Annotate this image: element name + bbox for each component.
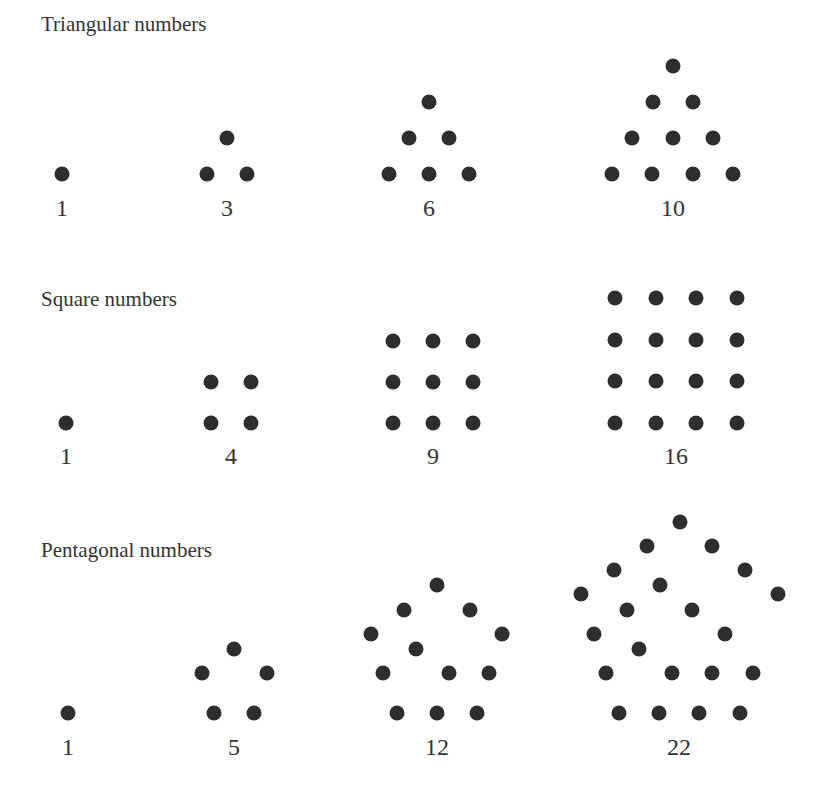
- dot: [649, 374, 664, 389]
- dot: [705, 539, 720, 554]
- dot: [227, 642, 242, 657]
- dot: [409, 642, 424, 657]
- triangular-label-1: 1: [56, 195, 68, 222]
- triangular-figure-1: [55, 167, 70, 182]
- dot: [402, 131, 417, 146]
- dot: [608, 374, 623, 389]
- triangular-figure-6: [382, 95, 477, 182]
- dot: [718, 627, 733, 642]
- dot: [705, 666, 720, 681]
- dot: [587, 627, 602, 642]
- pentagonal-figure-22: [574, 515, 786, 721]
- dot: [730, 333, 745, 348]
- dot: [422, 95, 437, 110]
- dot: [608, 291, 623, 306]
- dot: [666, 131, 681, 146]
- square-label-16: 16: [664, 443, 688, 470]
- dot: [686, 95, 701, 110]
- pentagonal-label-12: 12: [425, 734, 449, 761]
- dot: [574, 587, 589, 602]
- dot: [470, 706, 485, 721]
- dot: [649, 416, 664, 431]
- dot: [482, 666, 497, 681]
- dot: [426, 416, 441, 431]
- dot: [689, 291, 704, 306]
- dot: [673, 515, 688, 530]
- dot: [463, 603, 478, 618]
- square-figure-9: [386, 334, 481, 431]
- square-label-9: 9: [427, 443, 439, 470]
- dot: [730, 416, 745, 431]
- dot: [649, 333, 664, 348]
- dot: [706, 131, 721, 146]
- pentagonal-figure-5: [195, 642, 275, 721]
- dot: [599, 666, 614, 681]
- dot: [666, 59, 681, 74]
- dot: [376, 666, 391, 681]
- dot: [397, 603, 412, 618]
- dot: [649, 291, 664, 306]
- dot: [430, 578, 445, 593]
- dot: [730, 374, 745, 389]
- square-figure-16: [608, 291, 745, 431]
- dot: [686, 167, 701, 182]
- dot: [495, 627, 510, 642]
- triangular-numbers-title: Triangular numbers: [41, 12, 206, 37]
- triangular-figure-3: [200, 131, 255, 182]
- dot: [608, 416, 623, 431]
- dot: [652, 706, 667, 721]
- triangular-label-6: 6: [423, 195, 435, 222]
- dot: [771, 587, 786, 602]
- dot: [607, 563, 622, 578]
- dot: [665, 666, 680, 681]
- dot: [195, 666, 210, 681]
- pentagonal-label-5: 5: [228, 734, 240, 761]
- triangular-label-3: 3: [221, 195, 233, 222]
- dot: [466, 375, 481, 390]
- dot: [386, 375, 401, 390]
- dot: [386, 334, 401, 349]
- pentagonal-numbers-title: Pentagonal numbers: [41, 538, 212, 563]
- square-label-4: 4: [225, 443, 237, 470]
- dot: [738, 563, 753, 578]
- dot: [442, 131, 457, 146]
- dot: [204, 375, 219, 390]
- dot: [244, 416, 259, 431]
- dot: [685, 603, 700, 618]
- dot: [59, 416, 74, 431]
- figurate-dots-canvas: [0, 0, 821, 798]
- dot: [364, 627, 379, 642]
- dot: [612, 706, 627, 721]
- dot: [382, 167, 397, 182]
- square-label-1: 1: [60, 443, 72, 470]
- dot: [645, 167, 660, 182]
- dot: [462, 167, 477, 182]
- dot: [608, 333, 623, 348]
- dot: [207, 706, 222, 721]
- dot: [55, 167, 70, 182]
- dot: [220, 131, 235, 146]
- dot: [61, 706, 76, 721]
- dot: [204, 416, 219, 431]
- dot: [689, 333, 704, 348]
- dot: [466, 334, 481, 349]
- dot: [632, 642, 647, 657]
- dot: [422, 167, 437, 182]
- dot: [426, 375, 441, 390]
- dot: [605, 167, 620, 182]
- dot: [200, 167, 215, 182]
- dot: [653, 578, 668, 593]
- dot: [689, 374, 704, 389]
- dot: [466, 416, 481, 431]
- pentagonal-figure-1: [61, 706, 76, 721]
- dot: [726, 167, 741, 182]
- dot: [386, 416, 401, 431]
- square-figure-1: [59, 416, 74, 431]
- dot: [247, 706, 262, 721]
- dot: [620, 603, 635, 618]
- dot: [240, 167, 255, 182]
- dot: [426, 334, 441, 349]
- dot: [746, 666, 761, 681]
- square-numbers-title: Square numbers: [41, 287, 177, 312]
- dot: [733, 706, 748, 721]
